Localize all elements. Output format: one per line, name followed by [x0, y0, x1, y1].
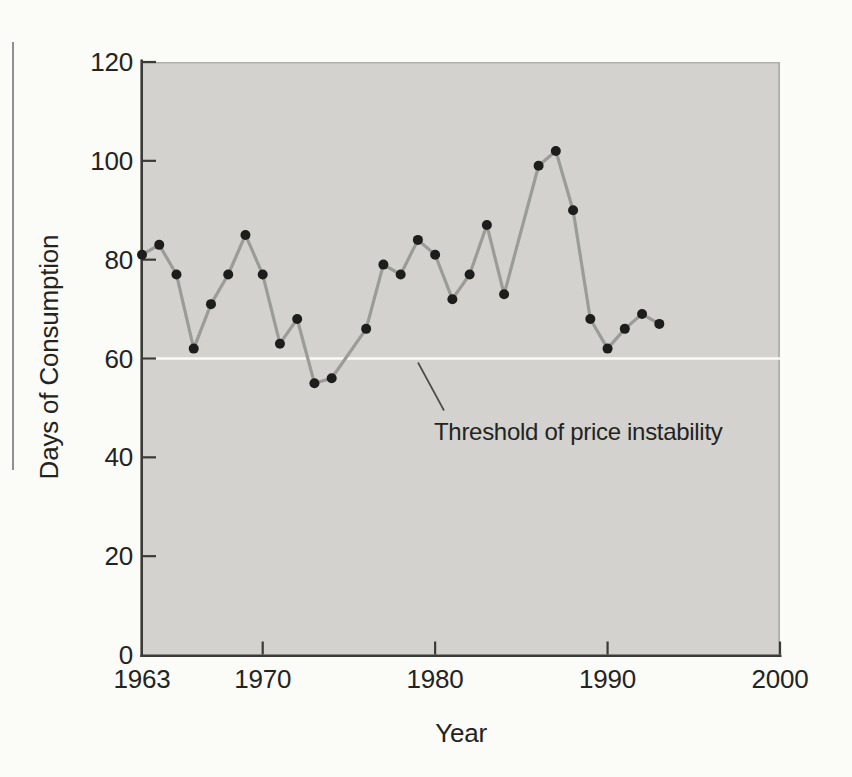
data-point — [482, 220, 492, 230]
days-of-consumption-chart: Days of Consumption Year Threshold of pr… — [0, 0, 852, 777]
data-point — [499, 289, 509, 299]
y-tick-label: 60 — [58, 344, 133, 374]
data-point — [534, 161, 544, 171]
data-point — [413, 235, 423, 245]
data-point — [154, 240, 164, 250]
data-point — [327, 373, 337, 383]
threshold-annotation-label: Threshold of price instability — [434, 417, 794, 447]
data-point — [378, 260, 388, 270]
data-point — [568, 205, 578, 215]
data-point — [430, 250, 440, 260]
data-point — [189, 344, 199, 354]
data-point — [603, 344, 613, 354]
data-point — [465, 269, 475, 279]
data-point — [275, 339, 285, 349]
data-point — [292, 314, 302, 324]
y-tick-label: 100 — [58, 146, 133, 176]
x-tick-label: 1970 — [218, 664, 308, 694]
data-point — [585, 314, 595, 324]
y-tick-label: 80 — [58, 245, 133, 275]
data-point — [240, 230, 250, 240]
data-point — [137, 250, 147, 260]
data-point — [396, 269, 406, 279]
x-axis-title: Year — [361, 718, 561, 748]
x-tick-label: 1980 — [390, 664, 480, 694]
data-point — [223, 269, 233, 279]
data-point — [620, 324, 630, 334]
data-point — [654, 319, 664, 329]
y-tick-label: 40 — [58, 442, 133, 472]
x-tick-label: 1990 — [563, 664, 653, 694]
data-point — [258, 269, 268, 279]
y-tick-label: 20 — [58, 541, 133, 571]
y-tick-label: 120 — [58, 47, 133, 77]
x-tick-label: 1963 — [97, 664, 187, 694]
x-tick-label: 2000 — [735, 664, 825, 694]
data-point — [361, 324, 371, 334]
data-point — [447, 294, 457, 304]
data-point — [171, 269, 181, 279]
book-page: Days of Consumption Year Threshold of pr… — [0, 0, 852, 777]
data-point — [206, 299, 216, 309]
data-point — [551, 146, 561, 156]
data-point — [637, 309, 647, 319]
data-point — [309, 378, 319, 388]
